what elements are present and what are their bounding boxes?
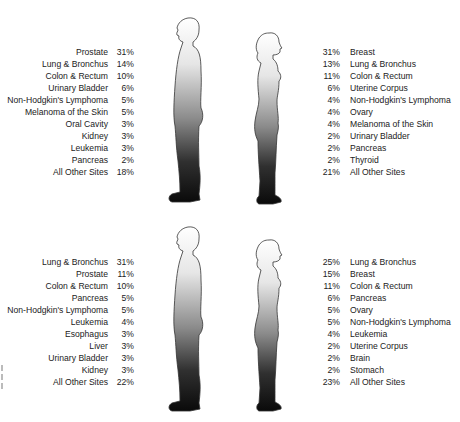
- list-item: Pancreas2%: [0, 154, 134, 166]
- site-label: Melanoma of the Skin: [340, 118, 433, 130]
- site-percent: 2%: [108, 154, 134, 166]
- site-label: Esophagus: [0, 328, 108, 340]
- site-label: Kidney: [0, 130, 108, 142]
- site-percent: 5%: [314, 316, 340, 328]
- list-item: 2%Urinary Bladder: [314, 130, 451, 142]
- site-percent: 3%: [108, 142, 134, 154]
- site-label: Urinary Bladder: [0, 352, 108, 364]
- site-label: Uterine Corpus: [340, 82, 408, 94]
- site-percent: 18%: [108, 166, 134, 178]
- site-percent: 14%: [108, 58, 134, 70]
- list-item: Colon & Rectum10%: [0, 70, 134, 82]
- site-percent: 4%: [108, 316, 134, 328]
- list-item: 4%Leukemia: [314, 328, 451, 340]
- site-label: Colon & Rectum: [340, 280, 413, 292]
- list-item: Kidney3%: [0, 364, 134, 376]
- list-item: Urinary Bladder6%: [0, 82, 134, 94]
- site-percent: 2%: [314, 364, 340, 376]
- site-percent: 3%: [108, 328, 134, 340]
- list-item: 6%Uterine Corpus: [314, 82, 451, 94]
- site-percent: 6%: [314, 292, 340, 304]
- site-label: Pancreas: [340, 142, 386, 154]
- site-label: Non-Hodgkin's Lymphoma: [340, 94, 451, 106]
- list-item: Leukemia4%: [0, 316, 134, 328]
- site-label: Melanoma of the Skin: [0, 106, 108, 118]
- list-item: 5%Non-Hodgkin's Lymphoma: [314, 316, 451, 328]
- list-item: Pancreas5%: [0, 292, 134, 304]
- site-label: Oral Cavity: [0, 118, 108, 130]
- list-item: 2%Stomach: [314, 364, 451, 376]
- male-silhouette-icon: [166, 224, 206, 416]
- site-label: Colon & Rectum: [0, 280, 108, 292]
- list-item: Esophagus3%: [0, 328, 134, 340]
- site-label: Ovary: [340, 106, 373, 118]
- site-percent: 15%: [314, 268, 340, 280]
- site-percent: 2%: [314, 142, 340, 154]
- site-percent: 31%: [108, 256, 134, 268]
- site-percent: 4%: [314, 106, 340, 118]
- site-label: Urinary Bladder: [340, 130, 410, 142]
- site-percent: 3%: [108, 352, 134, 364]
- site-label: Non-Hodgkin's Lymphoma: [0, 94, 108, 106]
- site-label: Lung & Bronchus: [340, 58, 416, 70]
- edge-marks: [0, 362, 4, 398]
- site-percent: 3%: [108, 340, 134, 352]
- site-label: Lung & Bronchus: [340, 256, 416, 268]
- site-percent: 11%: [314, 70, 340, 82]
- site-label: Colon & Rectum: [0, 70, 108, 82]
- list-item: 31%Breast: [314, 46, 451, 58]
- site-label: Prostate: [0, 268, 108, 280]
- list-item: 2%Thyroid: [314, 154, 451, 166]
- list-item: Liver3%: [0, 340, 134, 352]
- list-item: Melanoma of the Skin5%: [0, 106, 134, 118]
- list-item: 6%Pancreas: [314, 292, 451, 304]
- list-item: Non-Hodgkin's Lymphoma5%: [0, 94, 134, 106]
- list-item: 4%Ovary: [314, 106, 451, 118]
- list-item: 2%Pancreas: [314, 142, 451, 154]
- list-item: 23%All Other Sites: [314, 376, 451, 388]
- site-percent: 2%: [314, 154, 340, 166]
- site-percent: 3%: [108, 130, 134, 142]
- site-percent: 5%: [108, 292, 134, 304]
- site-label: Lung & Bronchus: [0, 58, 108, 70]
- female-list: 25%Lung & Bronchus 15%Breast 11%Colon & …: [314, 256, 451, 388]
- list-item: 25%Lung & Bronchus: [314, 256, 451, 268]
- site-label: All Other Sites: [0, 166, 108, 178]
- site-label: Lung & Bronchus: [0, 256, 108, 268]
- site-percent: 2%: [314, 352, 340, 364]
- site-label: Breast: [340, 46, 375, 58]
- site-label: Thyroid: [340, 154, 379, 166]
- site-label: Urinary Bladder: [0, 82, 108, 94]
- site-percent: 6%: [314, 82, 340, 94]
- site-label: Uterine Corpus: [340, 340, 408, 352]
- site-percent: 4%: [314, 118, 340, 130]
- site-percent: 5%: [108, 106, 134, 118]
- site-percent: 5%: [314, 304, 340, 316]
- list-item: 2%Brain: [314, 352, 451, 364]
- site-percent: 31%: [314, 46, 340, 58]
- site-label: Leukemia: [340, 328, 387, 340]
- list-item: 11%Colon & Rectum: [314, 70, 451, 82]
- site-percent: 25%: [314, 256, 340, 268]
- panel-new-cases: Prostate31% Lung & Bronchus14% Colon & R…: [0, 0, 460, 210]
- site-percent: 31%: [108, 46, 134, 58]
- male-silhouette-icon: [166, 15, 206, 207]
- list-item: All Other Sites18%: [0, 166, 134, 178]
- site-percent: 4%: [314, 94, 340, 106]
- site-percent: 13%: [314, 58, 340, 70]
- site-label: Kidney: [0, 364, 108, 376]
- list-item: 13%Lung & Bronchus: [314, 58, 451, 70]
- site-percent: 4%: [314, 328, 340, 340]
- site-percent: 21%: [314, 166, 340, 178]
- list-item: Kidney3%: [0, 130, 134, 142]
- male-list: Lung & Bronchus31% Prostate11% Colon & R…: [0, 256, 134, 388]
- site-percent: 10%: [108, 280, 134, 292]
- site-label: Non-Hodgkin's Lymphoma: [340, 316, 451, 328]
- list-item: 11%Colon & Rectum: [314, 280, 451, 292]
- list-item: Urinary Bladder3%: [0, 352, 134, 364]
- site-percent: 3%: [108, 364, 134, 376]
- site-label: Pancreas: [0, 154, 108, 166]
- female-silhouette-icon: [251, 30, 285, 208]
- site-label: Liver: [0, 340, 108, 352]
- site-label: Stomach: [340, 364, 384, 376]
